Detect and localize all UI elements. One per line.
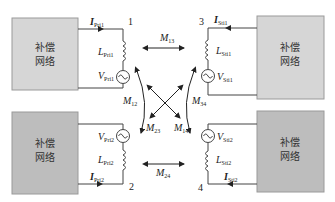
mutual-label-m24: M24: [155, 167, 170, 179]
curved-double-arrow-icon: [137, 71, 145, 133]
mutual-label-m12: M12: [122, 95, 137, 107]
source-label-4: VSti2: [217, 131, 233, 143]
mutual-label-m23: M23: [145, 122, 160, 134]
coil-circuit-4: ISti2 4 VSti2 LSti2: [198, 124, 257, 193]
network-box-top-left: 补偿 网络: [12, 18, 78, 90]
coupled-coil-diagram: 补偿 网络 补偿 网络 补偿 网络 补偿 网络 IPri1 1 LPri1 VP…: [0, 0, 335, 202]
inductor-icon: [123, 41, 126, 61]
network-label-line1: 补偿: [35, 41, 55, 53]
network-label-line1: 补偿: [280, 136, 300, 148]
mutual-m23-m14-cross: M23 M14: [145, 88, 188, 134]
inductor-label-3: LSti1: [215, 45, 231, 57]
inductor-label-2: LPri2: [97, 154, 114, 166]
coil-circuit-1: IPri1 1 LPri1 VPri1: [78, 16, 133, 88]
current-label-2: IPri2: [89, 171, 104, 183]
network-label-line1: 补偿: [35, 137, 55, 149]
source-label-3: VSti1: [217, 71, 233, 83]
network-label-line2: 网络: [35, 55, 55, 67]
inductor-icon: [206, 40, 209, 60]
mutual-label-m14: M14: [173, 122, 188, 134]
inductor-label-1: LPri1: [97, 46, 114, 58]
network-box-bottom-left: 补偿 网络: [12, 112, 78, 194]
mutual-label-m13: M13: [159, 32, 174, 44]
node-label-1: 1: [128, 16, 133, 27]
network-box-top-right: 补偿 网络: [257, 16, 324, 99]
network-label-line2: 网络: [35, 151, 55, 163]
network-label-line2: 网络: [280, 55, 300, 67]
mutual-m13: M13: [147, 32, 184, 48]
mutual-label-m34: M34: [191, 95, 206, 107]
inductor-icon: [123, 150, 126, 170]
inductor-icon: [206, 151, 209, 171]
node-label-3: 3: [199, 16, 204, 27]
node-label-2: 2: [129, 181, 134, 192]
mutual-m24: M24: [147, 164, 184, 179]
node-label-4: 4: [198, 182, 203, 193]
coil-circuit-3: ISti1 3 LSti1 VSti1: [199, 14, 257, 95]
source-label-2: VPri2: [98, 131, 114, 143]
current-label-4: ISti2: [223, 171, 238, 183]
current-label-3: ISti1: [213, 14, 228, 26]
network-label-line2: 网络: [280, 150, 300, 162]
inductor-label-4: LSti2: [215, 154, 231, 166]
source-label-1: VPri1: [98, 70, 114, 82]
current-label-1: IPri1: [89, 16, 104, 28]
network-box-bottom-right: 补偿 网络: [257, 111, 324, 192]
coil-circuit-2: IPri2 2 VPri2 LPri2: [78, 124, 134, 192]
network-label-line1: 补偿: [280, 41, 300, 53]
